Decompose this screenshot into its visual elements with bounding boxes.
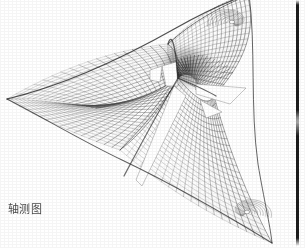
axonometric-drawing: [0, 0, 305, 248]
page-right-margin: [303, 0, 305, 248]
figure-caption: 轴测图: [8, 203, 42, 216]
spiral-eyelet: [244, 210, 249, 214]
page-gutter-rule: [296, 0, 299, 248]
spiral-eyelet: [229, 20, 234, 24]
figure-page: 轴测图: [0, 0, 305, 248]
